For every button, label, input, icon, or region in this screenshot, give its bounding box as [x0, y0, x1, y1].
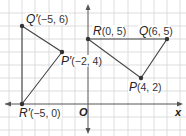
x-axis-label: x — [174, 106, 182, 118]
x-axis-arrow-left-icon — [5, 102, 11, 107]
label-p-prime: P′(−2, 4) — [61, 54, 102, 68]
point-q-prime — [20, 24, 24, 28]
coordinate-plane: Q′(−5, 6) P′(−2, 4) R′(−5, 0) R(0, 5) Q(… — [0, 0, 186, 136]
y-axis-arrow-down-icon — [86, 128, 91, 134]
label-r-prime: R′(−5, 0) — [19, 106, 61, 120]
label-q: Q(6, 5) — [139, 24, 173, 38]
label-q-prime: Q′(−5, 6) — [26, 12, 68, 26]
label-p: P(4, 2) — [129, 80, 162, 94]
point-r — [86, 37, 90, 41]
label-r: R(0, 5) — [93, 24, 126, 38]
origin-label: O — [79, 106, 88, 118]
point-p — [139, 76, 143, 80]
point-q — [165, 37, 169, 41]
y-axis-arrow-up-icon — [86, 4, 91, 10]
